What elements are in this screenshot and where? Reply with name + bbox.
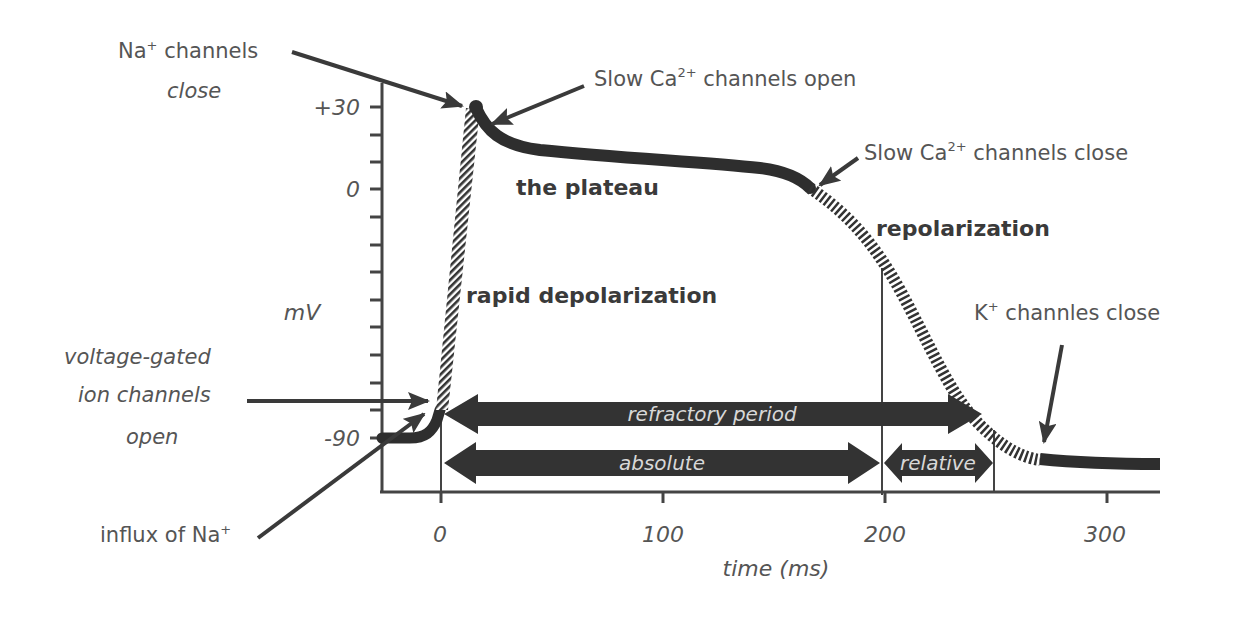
refractory-period-label: refractory period — [627, 402, 797, 426]
svg-text:Slow Ca2+ channels close: Slow Ca2+ channels close — [864, 139, 1128, 165]
x-axis: 0 100 200 300 time (ms) — [380, 492, 1160, 581]
plateau-label: the plateau — [516, 175, 659, 200]
annotation-na-channels-close: Na+ channels close — [118, 38, 462, 106]
x-tick-0: 0 — [433, 522, 447, 547]
repolarization-label: repolarization — [876, 216, 1050, 241]
y-tick-minus90: -90 — [324, 426, 360, 451]
y-axis-label: mV — [284, 300, 322, 325]
annotation-ca-channels-open: Slow Ca2+ channels open — [492, 65, 856, 124]
x-tick-100: 100 — [642, 522, 684, 547]
y-axis: +30 0 -90 mV — [284, 83, 382, 492]
svg-text:voltage-gated: voltage-gated — [64, 345, 211, 369]
action-potential-diagram: +30 0 -90 mV 0 100 200 300 time (ms) — [0, 0, 1252, 618]
svg-text:close: close — [167, 79, 221, 103]
x-tick-200: 200 — [864, 522, 906, 547]
svg-text:Slow Ca2+ channels open: Slow Ca2+ channels open — [594, 65, 856, 91]
svg-text:influx of Na+: influx of Na+ — [100, 522, 231, 547]
relative-period-arrow: relative — [884, 443, 993, 483]
annotation-voltage-gated-open: voltage-gated ion channels open — [64, 345, 428, 449]
relative-label: relative — [900, 451, 976, 475]
y-tick-plus30: +30 — [314, 95, 360, 120]
x-axis-label: time (ms) — [723, 556, 830, 581]
svg-text:Na+ channels: Na+ channels — [118, 38, 258, 63]
y-axis-ticks — [370, 107, 382, 438]
svg-text:K+ channles close: K+ channles close — [974, 299, 1160, 325]
annotation-ca-channels-close: Slow Ca2+ channels close — [820, 139, 1128, 185]
absolute-label: absolute — [619, 451, 705, 475]
y-tick-0: 0 — [346, 177, 360, 202]
x-axis-ticks — [441, 492, 1107, 503]
svg-text:ion channels: ion channels — [78, 383, 211, 407]
annotation-k-channels-close: K+ channles close — [974, 299, 1160, 442]
curve-depolarization — [436, 108, 480, 410]
depolarization-label: rapid depolarization — [466, 283, 717, 308]
x-tick-300: 300 — [1084, 522, 1126, 547]
curve-final-resting — [1040, 459, 1160, 464]
absolute-period-arrow: absolute — [444, 442, 880, 484]
refractory-period-arrow: refractory period — [444, 394, 982, 434]
svg-text:open: open — [126, 425, 178, 449]
